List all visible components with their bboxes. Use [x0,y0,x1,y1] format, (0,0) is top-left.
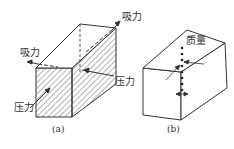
box-b [143,30,227,120]
caption-b: (b) [167,125,180,134]
label-pressure-bottom-left: 压力 [14,103,34,113]
caption-a: (a) [52,125,64,134]
diagram-canvas [0,0,234,149]
label-mass: 质量 [186,36,206,46]
label-suction-top-right: 吸力 [122,12,142,22]
box-a [36,24,116,117]
front-face-hatched [36,68,72,117]
label-pressure-right: 压力 [115,77,135,87]
label-suction-left: 吸力 [20,48,40,58]
